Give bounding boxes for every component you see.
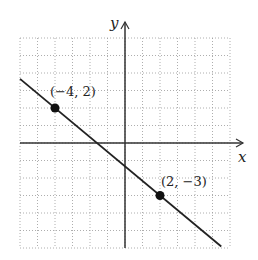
point-label: (−4, 2) <box>50 84 96 99</box>
point-marker <box>156 191 165 200</box>
point-label: (2, −3) <box>161 174 207 189</box>
point-marker <box>51 104 60 113</box>
x-axis-label: x <box>238 148 247 166</box>
y-axis-label: y <box>109 14 119 32</box>
data-line <box>20 79 221 247</box>
coordinate-plane: x y (−4, 2) (2, −3) <box>0 0 258 260</box>
